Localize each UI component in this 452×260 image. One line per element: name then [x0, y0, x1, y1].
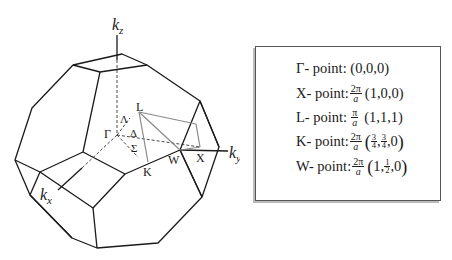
legend-row-l: L- point: πa (1,1,1): [296, 108, 403, 127]
legend-label: Γ- point:: [296, 60, 347, 77]
gamma-point-label: Γ: [104, 127, 111, 141]
K-point-label: K: [143, 165, 152, 179]
legend-coords: (1,0,0): [365, 85, 404, 102]
legend-row-x: X- point: 2πa (1,0,0): [296, 84, 404, 103]
delta-label: Δ: [130, 127, 137, 139]
legend-row-k: K- point: 2πa ( 34,34,0 ): [296, 132, 404, 151]
brillouin-zone-diagram: kz ky kx Γ L K W X Λ Δ Σ: [0, 0, 240, 260]
kx-axis: [58, 168, 82, 190]
prefactor-fraction: 2πa: [352, 157, 364, 176]
symmetry-points-legend: Γ- point: (0,0,0) X- point: 2πa (1,0,0) …: [255, 46, 441, 201]
kx-label: kx: [40, 186, 52, 206]
legend-label: L- point:: [296, 109, 347, 126]
legend-label: K- point:: [296, 133, 349, 150]
prefactor-fraction: 2πa: [350, 132, 362, 151]
prefactor-fraction: πa: [351, 108, 358, 127]
W-point-label: W: [168, 153, 180, 167]
ky-label: ky: [229, 144, 240, 164]
legend-label: W- point:: [296, 158, 351, 175]
legend-coords: (0,0,0): [350, 60, 389, 77]
sigma-label: Σ: [131, 142, 137, 154]
prefactor-fraction: 2πa: [350, 84, 362, 103]
L-point-label: L: [136, 100, 143, 114]
legend-coords: (1,1,1): [364, 109, 403, 126]
X-point-label: X: [196, 151, 205, 165]
legend-row-gamma: Γ- point: (0,0,0): [296, 60, 389, 77]
polyhedron-edges: [15, 54, 219, 248]
kz-label: kz: [112, 16, 124, 36]
legend-label: X- point:: [296, 85, 349, 102]
lambda-label: Λ: [120, 113, 128, 125]
legend-row-w: W- point: 2πa (1, 12,0 ): [296, 157, 407, 176]
